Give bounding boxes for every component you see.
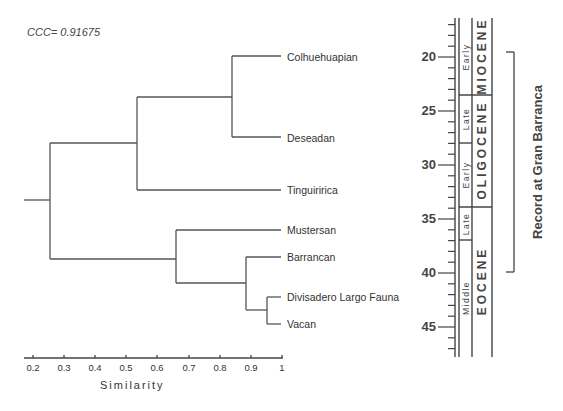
x-axis <box>24 355 283 358</box>
x-tick-label: 0.9 <box>244 362 257 373</box>
x-tick-label: 0.4 <box>88 362 101 373</box>
x-tick-label: 0.8 <box>213 362 226 373</box>
y-tick-label: 25 <box>410 104 436 118</box>
x-tick-label: 0.6 <box>150 362 163 373</box>
subepoch-label: Late <box>460 194 472 254</box>
leaf-label: Deseadan <box>287 132 335 144</box>
x-tick-label: 0.3 <box>57 362 70 373</box>
x-tick-label: 0.7 <box>182 362 195 373</box>
leaf-label: Vacan <box>287 318 316 330</box>
x-tick-label: 1 <box>279 362 284 373</box>
leaf-label: Mustersan <box>287 224 336 236</box>
gran-barranca-bracket <box>506 52 514 272</box>
leaf-label: Colhuehuapian <box>287 51 358 63</box>
dendrogram-lines <box>24 56 281 324</box>
x-tick-label: 0.5 <box>119 362 132 373</box>
leaf-label: Tinguiririca <box>287 184 338 196</box>
y-tick-label: 45 <box>410 320 436 334</box>
y-tick-label: 20 <box>410 50 436 64</box>
y-tick-label: 40 <box>410 266 436 280</box>
x-tick-label: 0.2 <box>26 362 39 373</box>
record-label: Record at Gran Barranca <box>530 72 546 252</box>
subepoch-label: Middle <box>460 268 472 328</box>
y-tick-label: 30 <box>410 158 436 172</box>
leaf-label: Divisadero Largo Fauna <box>287 291 399 303</box>
y-tick-label: 35 <box>410 212 436 226</box>
subepoch-label: Late <box>460 89 472 149</box>
leaf-label: Barrancan <box>287 251 335 263</box>
subepoch-label: Early <box>460 27 472 87</box>
epoch-label: EOCENE <box>474 221 490 341</box>
x-axis-label: Similarity <box>100 379 165 391</box>
epoch-label: OLIGOCENE <box>474 90 490 210</box>
ccc-annotation: CCC= 0.91675 <box>27 26 100 38</box>
timescale-ticks <box>438 25 455 349</box>
